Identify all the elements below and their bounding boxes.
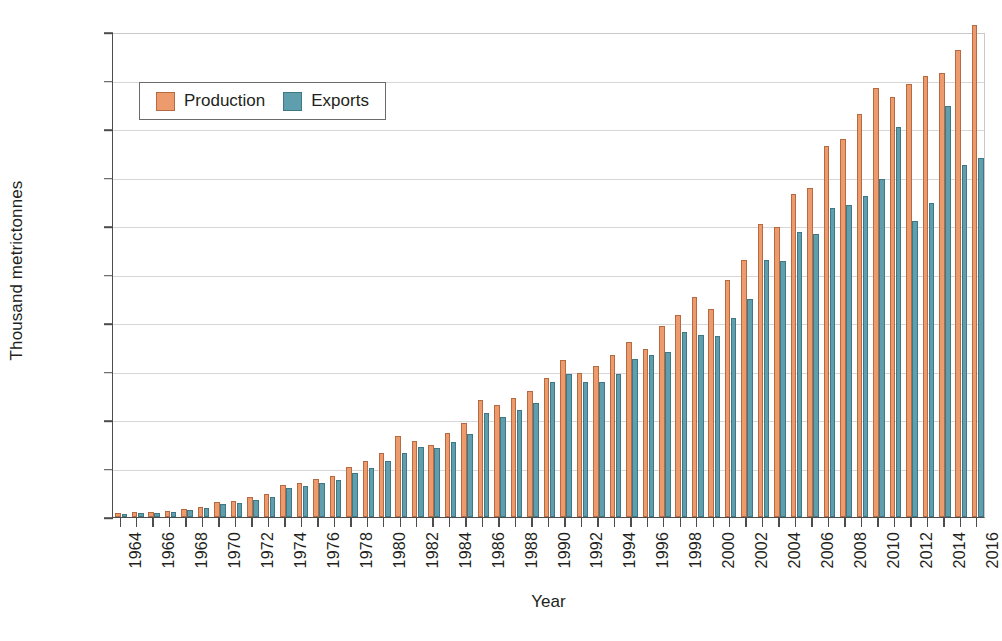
bar-exports-1986 [484,413,490,517]
x-axis-tick-mark [515,518,516,527]
x-axis-tick-mark [844,518,845,527]
bar-exports-1996 [649,355,655,517]
bar-exports-1983 [434,448,440,517]
legend-entry-exports: Exports [283,91,369,111]
x-axis-tick-label: 1988 [523,532,541,568]
bar-exports-1984 [451,442,457,517]
x-axis-tick-mark [136,518,137,527]
bar-production-1978 [346,467,352,517]
x-axis-tick-mark [597,518,598,527]
x-axis-tick-mark [202,518,203,527]
x-axis-tick-mark [416,518,417,527]
bar-production-1976 [313,479,319,517]
bar-production-2001 [725,280,731,517]
x-axis-tick-mark [795,518,796,527]
legend-label-exports: Exports [311,91,369,111]
bar-production-2011 [890,97,896,517]
x-axis-tick-mark [301,518,302,527]
x-axis-tick-mark [152,518,153,527]
exports-swatch-icon [283,92,302,111]
x-axis-tick-mark [877,518,878,527]
bar-exports-2000 [715,336,721,517]
x-axis-tick-label: 1968 [193,532,211,568]
bar-exports-1991 [566,374,572,517]
x-axis-tick-label: 2004 [786,532,804,568]
bar-exports-2015 [962,165,968,517]
bar-exports-1979 [369,468,375,517]
x-axis-tick-mark [745,518,746,527]
x-axis-tick-mark [910,518,911,527]
bar-exports-1998 [682,332,688,517]
bar-production-1994 [610,355,616,517]
bar-exports-2002 [747,299,753,517]
bar-exports-1994 [616,374,622,517]
bar-exports-1988 [517,410,523,517]
bar-exports-1997 [665,352,671,517]
bar-production-2012 [906,84,912,517]
bar-production-1993 [593,366,599,517]
bar-exports-1999 [698,335,704,517]
bar-exports-1995 [632,359,638,517]
bar-exports-2006 [813,234,819,517]
x-axis-tick-mark [943,518,944,527]
x-axis-tick-mark [960,518,961,527]
bar-exports-1972 [253,500,259,517]
bar-exports-1978 [352,473,358,517]
bar-production-1987 [494,405,500,517]
bar-production-1968 [181,509,187,517]
gridline [113,324,984,325]
bar-exports-1989 [533,403,539,517]
x-axis-tick-mark [762,518,763,527]
bar-exports-2004 [780,261,786,517]
bar-production-1967 [165,511,171,517]
bar-exports-1964 [122,514,128,517]
x-axis-tick-mark [284,518,285,527]
legend-entry-production: Production [156,91,265,111]
bar-exports-1981 [402,453,408,517]
bar-exports-2009 [863,196,869,517]
x-axis-tick-mark [350,518,351,527]
gridline [113,179,984,180]
bar-exports-2011 [896,127,902,517]
bar-exports-1987 [500,417,506,517]
x-axis-tick-mark [828,518,829,527]
x-axis-tick-label: 1998 [687,532,705,568]
x-axis-tick-mark [861,518,862,527]
x-axis-tick-mark [663,518,664,527]
bar-production-2004 [774,227,780,517]
x-axis-tick-mark [465,518,466,527]
x-axis-tick-mark [235,518,236,527]
production-swatch-icon [156,92,175,111]
bar-production-1971 [231,501,237,517]
bar-exports-1977 [336,480,342,517]
x-axis-tick-label: 1964 [127,532,145,568]
gridline [113,276,984,277]
bar-production-2002 [741,260,747,517]
bar-production-1965 [132,512,138,517]
bar-production-1982 [412,441,418,517]
x-axis-tick-label: 2016 [984,532,1002,568]
bar-production-1986 [478,400,484,517]
x-axis-tick-mark [894,518,895,527]
bar-production-1992 [577,373,583,517]
legend-label-production: Production [184,91,265,111]
x-axis-tick-label: 1980 [391,532,409,568]
bar-production-2003 [758,224,764,517]
gridline [113,373,984,374]
x-axis-tick-mark [367,518,368,527]
bar-exports-1980 [385,461,391,517]
x-axis-tick-mark [218,518,219,527]
x-axis-tick-label: 2014 [951,532,969,568]
bar-exports-2005 [797,232,803,517]
x-axis-tick-mark [811,518,812,527]
bar-exports-1982 [418,447,424,517]
bar-exports-1966 [154,513,160,517]
chart-legend: Production Exports [139,82,386,120]
bar-exports-2001 [731,318,737,517]
bar-production-1981 [395,436,401,517]
x-axis-tick-mark [120,518,121,527]
bar-exports-2013 [929,203,935,517]
x-axis-tick-mark [778,518,779,527]
bar-exports-1971 [237,503,243,517]
